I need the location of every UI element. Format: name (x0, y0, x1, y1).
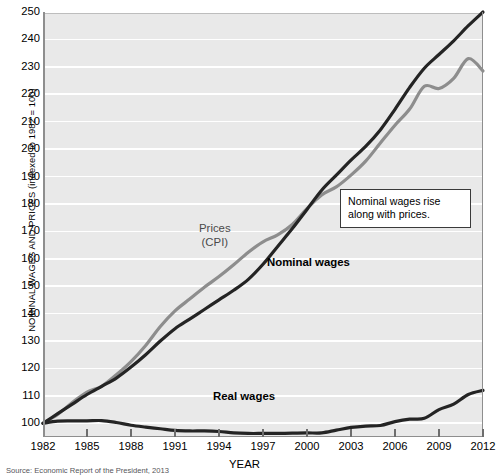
x-tick-label: 2000 (284, 441, 330, 452)
x-tickmark (86, 429, 87, 437)
x-tick-label: 2006 (372, 441, 418, 452)
x-tickmark (438, 429, 439, 437)
x-tickmark (130, 429, 131, 437)
x-tick-label: 2003 (328, 441, 374, 452)
x-tick-label: 1988 (108, 441, 154, 452)
series-line-prices-cpi (43, 59, 483, 424)
x-tickmark (306, 429, 307, 437)
x-tick-label: 1985 (64, 441, 110, 452)
y-tick-label: 230 (0, 61, 40, 72)
y-tick-label: 110 (0, 390, 40, 401)
x-tickmark (350, 429, 351, 437)
y-tick-label: 210 (0, 116, 40, 127)
x-tick-label: 1994 (196, 441, 242, 452)
y-tick-label: 240 (0, 33, 40, 44)
annotation-callout: Nominal wages rise along with prices. (340, 189, 471, 228)
y-tick-label: 200 (0, 143, 40, 154)
y-tick-label: 180 (0, 198, 40, 209)
x-tickmark (174, 429, 175, 437)
x-tickmark (218, 429, 219, 437)
y-tick-label: 190 (0, 171, 40, 182)
x-tick-label: 1991 (152, 441, 198, 452)
x-tickmark (394, 429, 395, 437)
y-tick-label: 120 (0, 362, 40, 373)
y-tick-label: 170 (0, 225, 40, 236)
x-tickmark (262, 429, 263, 437)
y-tick-label: 130 (0, 335, 40, 346)
y-axis-line (43, 12, 45, 437)
y-tick-label: 140 (0, 308, 40, 319)
x-tickmark (482, 429, 483, 437)
plot-right-border (482, 12, 484, 437)
y-tick-label: 250 (0, 6, 40, 17)
x-tick-label: 2012 (460, 441, 500, 452)
source-note: Source: Economic Report of the President… (6, 466, 169, 475)
x-tick-label: 2009 (416, 441, 462, 452)
y-tick-label: 160 (0, 253, 40, 264)
y-tick-label: 100 (0, 417, 40, 428)
series-label-nominal-wages: Nominal wages (267, 256, 350, 270)
y-tick-label: 150 (0, 280, 40, 291)
x-tick-label: 1982 (20, 441, 66, 452)
series-label-prices: Prices (CPI) (199, 222, 231, 249)
y-tick-label: 220 (0, 88, 40, 99)
series-label-real-wages: Real wages (213, 390, 275, 404)
x-tick-label: 1997 (240, 441, 286, 452)
